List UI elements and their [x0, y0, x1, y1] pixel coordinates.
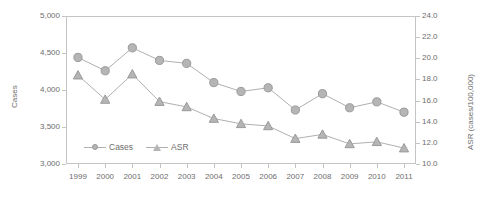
data-point-cases-2011[interactable]: [400, 108, 408, 116]
series-line-asr: [78, 74, 404, 148]
data-point-asr-1999[interactable]: [73, 71, 82, 79]
data-point-cases-2004[interactable]: [210, 79, 218, 87]
legend-label-cases: Cases: [109, 143, 133, 152]
data-point-cases-2009[interactable]: [346, 104, 354, 112]
data-point-cases-2000[interactable]: [101, 67, 109, 75]
series-line-cases: [78, 48, 404, 112]
legend-item-cases[interactable]: Cases: [84, 143, 133, 152]
data-point-asr-2010[interactable]: [372, 137, 381, 145]
data-point-cases-2006[interactable]: [264, 84, 272, 92]
circle-marker-icon: [92, 144, 98, 150]
triangle-marker-icon: [153, 144, 161, 151]
data-point-asr-2004[interactable]: [209, 114, 218, 122]
data-point-asr-2001[interactable]: [128, 70, 137, 78]
data-point-cases-2005[interactable]: [237, 87, 245, 95]
legend-line-cases: [84, 147, 106, 148]
data-point-cases-2010[interactable]: [373, 98, 381, 106]
legend-label-asr: ASR: [171, 143, 188, 152]
series-layer: [0, 0, 480, 201]
data-point-cases-1999[interactable]: [74, 53, 82, 61]
data-point-asr-2008[interactable]: [318, 130, 327, 138]
data-point-cases-2003[interactable]: [183, 59, 191, 67]
chart-legend: Cases ASR: [84, 143, 189, 152]
data-point-cases-2008[interactable]: [318, 90, 326, 98]
data-point-cases-2001[interactable]: [128, 44, 136, 52]
legend-item-asr[interactable]: ASR: [146, 143, 188, 152]
data-point-cases-2002[interactable]: [155, 56, 163, 64]
data-point-cases-2007[interactable]: [291, 106, 299, 114]
legend-line-asr: [146, 147, 168, 148]
chart-container: Cases ASR (cases/100,000) 3,0003,5004,00…: [0, 0, 480, 201]
